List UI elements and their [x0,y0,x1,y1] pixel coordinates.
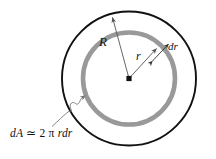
area-element-suffix: rdr [58,127,73,139]
label-ring-thickness-dr: dr [168,41,178,52]
label-area-element-equation: dA ≃ 2 π rdr [10,128,73,140]
figure-canvas: R r dr dA ≃ 2 π rdr [0,0,216,159]
radius-R-arrow [113,18,130,79]
area-element-relation: ≃ [26,127,36,139]
label-ring-radius-r: r [136,50,141,62]
area-element-prefix: dA [10,127,23,139]
center-point-dot [126,76,131,81]
area-element-leader-line [52,96,86,127]
label-outer-radius-R: R [99,35,107,48]
radius-r-arrow [129,49,157,79]
